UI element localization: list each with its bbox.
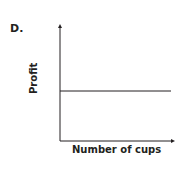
y-axis-label: Profit	[28, 63, 39, 94]
x-axis-label: Number of cups	[72, 144, 161, 155]
